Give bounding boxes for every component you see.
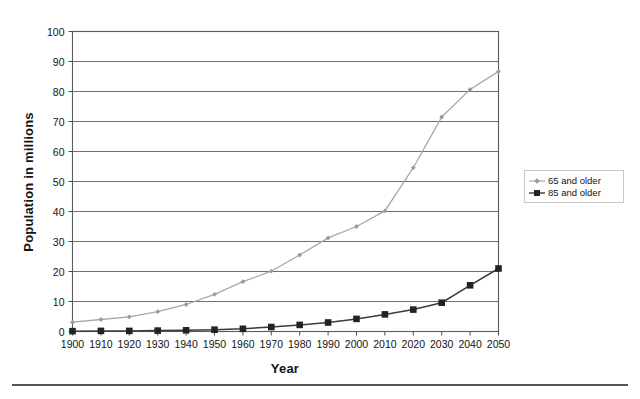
data-point-65-1920 <box>127 314 132 319</box>
data-point-85-1900 <box>69 328 76 335</box>
y-tick-label-30: 30 <box>53 236 65 248</box>
x-tick-label-1960: 1960 <box>231 338 255 350</box>
x-tick-label-2010: 2010 <box>373 338 397 350</box>
y-tick-label-70: 70 <box>53 116 65 128</box>
x-tick-label-1940: 1940 <box>174 338 198 350</box>
data-point-85-1950 <box>211 326 218 333</box>
legend-label-65: 65 and older <box>548 175 601 186</box>
y-axis-ticks-group: 0102030405060708090100 <box>47 26 73 338</box>
y-tick-label-100: 100 <box>47 26 65 38</box>
data-point-85-2020 <box>410 306 417 313</box>
data-series-group <box>69 69 502 335</box>
data-point-85-2040 <box>467 282 474 289</box>
data-point-85-2000 <box>353 316 360 323</box>
y-tick-label-50: 50 <box>53 176 65 188</box>
data-point-65-1940 <box>184 302 189 307</box>
x-tick-label-1910: 1910 <box>89 338 113 350</box>
y-tick-label-80: 80 <box>53 86 65 98</box>
x-axis-title: Year <box>271 361 299 376</box>
data-point-65-1960 <box>241 279 246 284</box>
x-tick-label-2000: 2000 <box>345 338 369 350</box>
y-tick-label-0: 0 <box>59 326 65 338</box>
line-chart-svg: 0102030405060708090100 19001910192019301… <box>0 0 640 399</box>
data-point-85-1970 <box>268 324 275 331</box>
data-point-85-1940 <box>183 327 190 334</box>
y-tick-label-20: 20 <box>53 266 65 278</box>
data-point-85-1920 <box>126 328 133 335</box>
legend-label-85: 85 and older <box>548 187 601 198</box>
data-point-85-1960 <box>240 326 247 333</box>
series-line-65 <box>73 71 499 322</box>
x-tick-label-1900: 1900 <box>61 338 85 350</box>
series-85-and-older <box>69 265 502 334</box>
y-axis-title: Population in millions <box>21 112 36 251</box>
x-tick-label-2030: 2030 <box>430 338 454 350</box>
data-point-85-2010 <box>382 311 389 318</box>
series-65-and-older <box>70 69 501 325</box>
data-point-85-1910 <box>98 328 105 335</box>
y-tick-label-90: 90 <box>53 56 65 68</box>
x-tick-label-2050: 2050 <box>487 338 511 350</box>
data-point-85-2050 <box>495 265 502 272</box>
x-tick-label-1930: 1930 <box>146 338 170 350</box>
x-tick-label-2020: 2020 <box>402 338 426 350</box>
x-tick-label-1980: 1980 <box>288 338 312 350</box>
data-point-85-2030 <box>438 299 445 306</box>
gridlines-group <box>73 62 499 302</box>
data-point-65-1950 <box>212 292 217 297</box>
data-point-65-1910 <box>99 317 104 322</box>
chart-figure: 0102030405060708090100 19001910192019301… <box>0 0 640 399</box>
x-tick-label-2040: 2040 <box>458 338 482 350</box>
legend-marker-85-icon <box>534 190 540 196</box>
data-point-85-1980 <box>296 322 303 329</box>
chart-legend: 65 and older 85 and older <box>525 171 624 203</box>
data-point-85-1930 <box>154 327 161 334</box>
data-point-65-2000 <box>354 224 359 229</box>
data-point-85-1990 <box>325 319 332 326</box>
data-point-65-1930 <box>155 309 160 314</box>
x-tick-label-1990: 1990 <box>316 338 340 350</box>
x-tick-label-1950: 1950 <box>203 338 227 350</box>
data-point-65-1900 <box>70 320 75 325</box>
series-line-85 <box>73 269 499 332</box>
x-tick-label-1970: 1970 <box>260 338 284 350</box>
y-tick-label-40: 40 <box>53 206 65 218</box>
y-tick-label-60: 60 <box>53 146 65 158</box>
x-tick-label-1920: 1920 <box>118 338 142 350</box>
y-tick-label-10: 10 <box>53 296 65 308</box>
